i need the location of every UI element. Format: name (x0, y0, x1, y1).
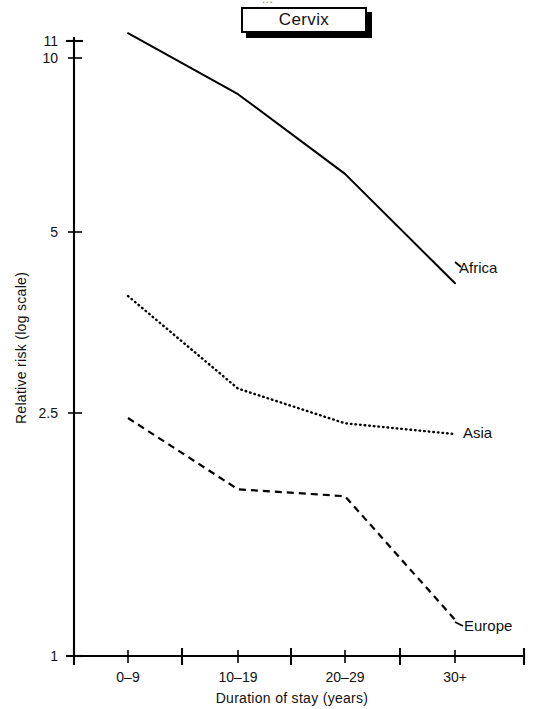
series-labels: Africa Asia Europe (459, 259, 512, 634)
series-label-europe: Europe (464, 617, 512, 634)
x-tick-label-20-29: 20–29 (326, 669, 365, 685)
axis-lines (74, 38, 524, 656)
y-tick-label-1: 1 (50, 648, 58, 664)
series-label-asia: Asia (463, 424, 493, 441)
y-tick-label-2point5: 2.5 (39, 405, 59, 421)
series-label-africa: Africa (459, 259, 498, 276)
series-label-leaders (455, 262, 463, 626)
chart-figure: ... Cervix 11 10 5 2.5 1 Relati (0, 0, 535, 709)
y-tick-label-5: 5 (50, 224, 58, 240)
x-axis-tick-labels: 0–9 10–19 20–29 30+ (116, 669, 467, 685)
leader-europe (455, 622, 463, 626)
series-line-asia (128, 296, 455, 434)
x-tick-label-0-9: 0–9 (116, 669, 140, 685)
series-line-europe (128, 418, 455, 620)
plot-area: 11 10 5 2.5 1 Relative risk (log scale) … (0, 0, 535, 709)
series-lines (128, 33, 455, 620)
x-tick-label-10-19: 10–19 (219, 669, 258, 685)
y-tick-label-11: 11 (43, 33, 58, 49)
y-tick-label-10: 10 (42, 50, 58, 66)
y-axis-title: Relative risk (log scale) (13, 272, 29, 424)
series-line-africa (128, 33, 455, 283)
y-axis-tick-labels: 11 10 5 2.5 1 (39, 33, 59, 664)
x-tick-label-30plus: 30+ (443, 669, 467, 685)
x-axis-title: Duration of stay (years) (216, 690, 369, 706)
